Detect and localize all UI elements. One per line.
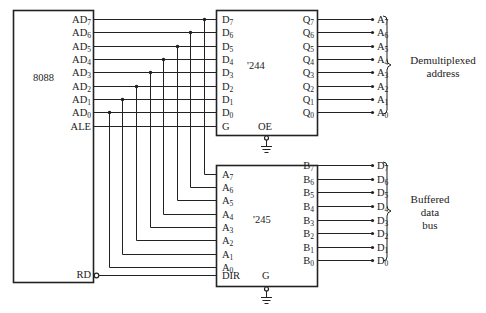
data-d4: D4	[377, 201, 388, 212]
xcvr-out-b1: B1	[290, 242, 314, 253]
latch-in-d2: D2	[222, 81, 233, 92]
address-bus-caption: Demultiplexed address	[400, 54, 486, 80]
data-d0: D0	[377, 255, 388, 266]
latch-in-g: G	[222, 121, 230, 132]
latch-in-d1: D1	[222, 94, 233, 105]
xcvr-out-b7: B7	[290, 160, 314, 171]
cpu-pin-ad7: AD7	[50, 14, 91, 25]
xcvr-out-b3: B3	[290, 215, 314, 226]
addr-a1: A1	[377, 94, 388, 105]
cpu-pin-ad0: AD0	[50, 107, 91, 118]
xcvr-in-a6: A6	[222, 182, 233, 193]
latch-in-d6: D6	[222, 27, 233, 38]
cpu-pin-ad4: AD4	[50, 54, 91, 65]
xcvr-in-a3: A3	[222, 222, 233, 233]
xcvr-out-b6: B6	[290, 174, 314, 185]
addr-a2: A2	[377, 81, 388, 92]
data-d3: D3	[377, 215, 388, 226]
rd-inversion-bubble	[94, 273, 99, 278]
cpu-pin-ad1: AD1	[50, 94, 91, 105]
data-d6: D6	[377, 174, 388, 185]
data-d5: D5	[377, 187, 388, 198]
xcvr-in-a5: A5	[222, 195, 233, 206]
latch-in-d3: D3	[222, 67, 233, 78]
latch-in-d5: D5	[222, 41, 233, 52]
xcvr-out-b4: B4	[290, 201, 314, 212]
data-d1: D1	[377, 242, 388, 253]
latch-out-q2: Q2	[290, 81, 314, 92]
xcvr-in-a1: A1	[222, 249, 233, 260]
xcvr-in-a2: A2	[222, 235, 233, 246]
addr-a7: A7	[377, 14, 388, 25]
transceiver-g-pin: G	[262, 270, 270, 281]
cpu-rd-pin: RD	[60, 269, 91, 280]
data-d2: D2	[377, 228, 388, 239]
latch-oe-pin: OE	[258, 121, 272, 132]
junction-dots	[108, 18, 374, 262]
latch-in-d7: D7	[222, 14, 233, 25]
xcvr-out-b5: B5	[290, 187, 314, 198]
xcvr-in-dir: DIR	[222, 270, 240, 281]
latch-out-q3: Q3	[290, 67, 314, 78]
latch-out-q1: Q1	[290, 94, 314, 105]
latch-out-q6: Q6	[290, 27, 314, 38]
xcvr-out-b0: B0	[290, 255, 314, 266]
latch-in-d4: D4	[222, 54, 233, 65]
data-d7: D7	[377, 160, 388, 171]
latch-out-q7: Q7	[290, 14, 314, 25]
cpu-pin-ad6: AD6	[50, 27, 91, 38]
addr-a5: A5	[377, 41, 388, 52]
addr-a0: A0	[377, 107, 388, 118]
latch-in-d0: D0	[222, 107, 233, 118]
oe-inversion-bubble	[265, 136, 269, 140]
cpu-pin-ad5: AD5	[50, 41, 91, 52]
latch-out-q4: Q4	[290, 54, 314, 65]
xcvr-in-a7: A7	[222, 169, 233, 180]
addr-a3: A3	[377, 67, 388, 78]
g-inversion-bubble	[265, 287, 269, 291]
cpu-pin-ale: ALE	[50, 121, 91, 132]
transceiver-name: '245	[253, 214, 271, 225]
addr-a4: A4	[377, 54, 388, 65]
latch-out-q0: Q0	[290, 107, 314, 118]
xcvr-in-a4: A4	[222, 209, 233, 220]
cpu-pin-ad2: AD2	[50, 81, 91, 92]
latch-name: '244	[247, 60, 265, 71]
xcvr-out-b2: B2	[290, 228, 314, 239]
latch-out-q5: Q5	[290, 41, 314, 52]
cpu-pin-ad3: AD3	[50, 67, 91, 78]
data-bus-caption: Buffered data bus	[400, 193, 460, 232]
addr-a6: A6	[377, 27, 388, 38]
